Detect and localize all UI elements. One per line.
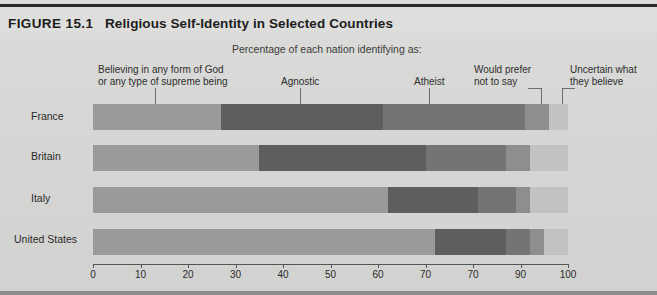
legend-uncertain-line1: Uncertain what [570, 64, 637, 75]
bar-segment-uncertain [530, 145, 568, 171]
x-axis-tick-label: 100 [560, 269, 577, 280]
x-axis-tick-label: 90 [515, 269, 526, 280]
x-axis-tick-label: 70 [467, 269, 478, 280]
country-label-britain: Britain [31, 150, 61, 162]
legend-label-believing: Believing in any form of God or any type… [98, 64, 228, 87]
bar-segment-atheist [426, 145, 507, 171]
title-band: FIGURE 15.1 Religious Self-Identity in S… [0, 7, 657, 31]
legend-label-uncertain: Uncertain what they believe [570, 64, 637, 87]
country-label-france: France [31, 110, 64, 122]
bar-segment-prefer-not-to-say [506, 145, 530, 171]
legend-believing-line1: Believing in any form of God [98, 64, 224, 75]
x-axis-tick [188, 264, 189, 268]
bar-segment-agnostic [435, 229, 506, 255]
figure-panel: FIGURE 15.1 Religious Self-Identity in S… [0, 0, 657, 295]
bar-segment-believing [93, 104, 221, 130]
x-axis-tick [426, 264, 427, 268]
bar-segment-agnostic [388, 187, 478, 213]
legend-label-atheist: Atheist [414, 76, 445, 88]
bar-segment-uncertain [530, 187, 568, 213]
legend-believing-line2: or any type of supreme being [98, 76, 228, 87]
x-axis-tick [521, 264, 522, 268]
x-axis-tick-label: 40 [277, 269, 288, 280]
table-row [93, 145, 568, 171]
figure-title: FIGURE 15.1 Religious Self-Identity in S… [8, 16, 393, 31]
bar-segment-agnostic [259, 145, 425, 171]
x-axis-tick [473, 264, 474, 268]
legend-prefer-line2: not to say [474, 76, 517, 87]
x-axis-tick-label: 20 [182, 269, 193, 280]
x-axis-tick [141, 264, 142, 268]
table-row [93, 229, 568, 255]
x-axis-tick [378, 264, 379, 268]
leader-line-uncertain-horz [562, 88, 575, 89]
figure-number: FIGURE 15.1 [8, 16, 93, 31]
table-row [93, 104, 568, 130]
bar-segment-atheist [506, 229, 530, 255]
legend-uncertain-line2: they believe [570, 76, 623, 87]
bar-segment-believing [93, 187, 388, 213]
leader-line-prefer-horz [528, 88, 542, 89]
bar-segment-atheist [478, 187, 516, 213]
country-label-italy: Italy [31, 192, 50, 204]
bar-segment-believing [93, 145, 259, 171]
legend-prefer-line1: Would prefer [474, 64, 531, 75]
x-axis-tick-label: 0 [90, 269, 96, 280]
x-axis-tick [283, 264, 284, 268]
bar-segment-prefer-not-to-say [525, 104, 549, 130]
x-axis-tick-label: 30 [230, 269, 241, 280]
bar-segment-believing [93, 229, 435, 255]
figure-bottom-rule [0, 291, 657, 295]
table-row [93, 187, 568, 213]
bar-segment-agnostic [221, 104, 383, 130]
legend-label-agnostic: Agnostic [281, 76, 319, 88]
x-axis-tick [93, 264, 94, 268]
legend-label-prefer-not-to-say: Would prefer not to say [474, 64, 531, 87]
x-axis-tick-label: 70 [420, 269, 431, 280]
x-axis-tick [236, 264, 237, 268]
country-label-united-states: United States [14, 233, 77, 245]
x-axis-tick-label: 60 [372, 269, 383, 280]
bar-segment-atheist [383, 104, 526, 130]
bar-segment-prefer-not-to-say [530, 229, 544, 255]
x-axis-tick-label: 10 [135, 269, 146, 280]
bar-segment-prefer-not-to-say [516, 187, 530, 213]
x-axis-tick [568, 264, 569, 268]
bar-chart-plot-area [93, 100, 568, 262]
bar-segment-uncertain [544, 229, 568, 255]
bar-segment-uncertain [549, 104, 568, 130]
x-axis-tick-label: 50 [325, 269, 336, 280]
x-axis-tick [331, 264, 332, 268]
figure-title-text: Religious Self-Identity in Selected Coun… [105, 16, 393, 31]
chart-subtitle: Percentage of each nation identifying as… [232, 43, 422, 55]
